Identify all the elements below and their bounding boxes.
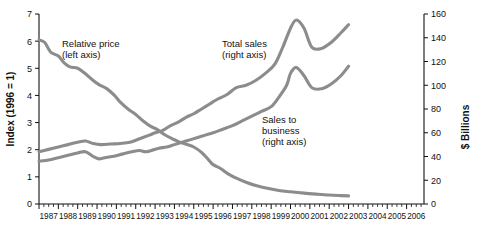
y-tick-label-left: 7 [27,9,32,19]
y-tick-label-left: 6 [27,37,32,47]
y-axis-title-right: $ Billions [460,104,471,149]
x-tick-label: 1989 [78,212,97,221]
y-tick-label-left: 2 [27,145,32,155]
y-tick-label-left: 0 [27,199,32,209]
y-tick-label-right: 140 [431,33,446,43]
x-tick-label: 1988 [59,212,78,221]
total-sales-label: (right axis) [222,49,266,60]
x-tick-label: 1987 [40,212,59,221]
y-tick-label-right: 80 [431,104,441,114]
x-tick-label: 1994 [175,212,194,221]
x-tick-label: 2006 [407,212,426,221]
x-tick-label: 2004 [368,212,387,221]
x-tick-label: 1997 [233,212,252,221]
x-tick-label: 2002 [330,212,349,221]
relative-price-label: Relative price [62,38,120,49]
y-tick-label-right: 100 [431,81,446,91]
y-tick-label-right: 120 [431,57,446,67]
total-sales-label: Total sales [222,38,267,49]
x-tick-label: 1993 [156,212,175,221]
y-tick-label-right: 160 [431,9,446,19]
x-tick-label: 1991 [117,212,136,221]
x-tick-label: 2001 [310,212,329,221]
y-tick-label-right: 20 [431,176,441,186]
y-tick-label-left: 3 [27,118,32,128]
y-tick-label-left: 1 [27,172,32,182]
x-tick-label: 2005 [388,212,407,221]
y-tick-label-left: 4 [27,91,32,101]
sales-to-business-label: Sales to [262,114,296,125]
line-chart: 0123456702040608010012014016019871988198… [0,0,485,239]
x-tick-label: 2000 [291,212,310,221]
y-tick-label-right: 60 [431,128,441,138]
y-tick-label-left: 5 [27,64,32,74]
x-tick-label: 1992 [136,212,155,221]
y-tick-label-right: 40 [431,152,441,162]
x-tick-label: 1998 [252,212,271,221]
series-line [39,40,349,196]
sales-to-business-label: business [262,125,300,136]
y-axis-title-left: Index (1996 = 1) [5,72,16,147]
x-tick-label: 2003 [349,212,368,221]
x-tick-label: 1999 [272,212,291,221]
sales-to-business-label: (right axis) [262,136,306,147]
x-tick-label: 1996 [214,212,233,221]
plot-layers: 0123456702040608010012014016019871988198… [5,9,471,221]
x-tick-label: 1995 [194,212,213,221]
x-tick-label: 1990 [98,212,117,221]
relative-price-label: (left axis) [62,49,101,60]
y-tick-label-right: 0 [431,199,436,209]
chart-container: 0123456702040608010012014016019871988198… [0,0,485,239]
